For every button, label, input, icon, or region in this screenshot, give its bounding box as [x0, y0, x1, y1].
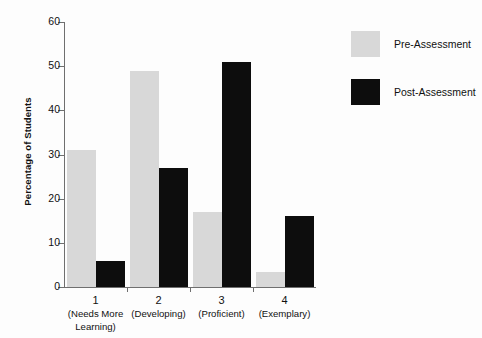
- category-description: Learning): [50, 320, 141, 333]
- x-axis-tick-mark: [253, 287, 254, 292]
- bar: [256, 272, 285, 287]
- legend-label-pre-assessment: Pre-Assessment: [394, 38, 471, 50]
- y-axis-tick-label: 60: [48, 15, 60, 27]
- y-axis-tick-label: 50: [48, 59, 60, 71]
- y-axis-tick-label: 10: [48, 236, 60, 248]
- y-axis-title: Percentage of Students: [22, 87, 33, 217]
- legend-item-pre-assessment: Pre-Assessment: [351, 20, 476, 68]
- legend-item-post-assessment: Post-Assessment: [351, 68, 476, 116]
- category-description: (Exemplary): [239, 307, 330, 320]
- legend: Pre-Assessment Post-Assessment: [351, 20, 476, 116]
- y-axis-tick-label: 30: [48, 148, 60, 160]
- bar: [67, 150, 96, 287]
- y-axis-tick-label: 20: [48, 192, 60, 204]
- x-axis-tick-mark: [190, 287, 191, 292]
- x-axis-category-label: 4(Exemplary): [239, 294, 330, 320]
- bar: [285, 216, 314, 287]
- x-axis-tick-mark: [127, 287, 128, 292]
- bar: [96, 261, 125, 288]
- bar: [193, 212, 222, 287]
- y-axis-tick-label: 0: [54, 280, 60, 292]
- bar: [130, 71, 159, 287]
- category-number: 4: [239, 294, 330, 307]
- plot-area: 0102030405060: [64, 22, 316, 287]
- bar-chart: Percentage of Students 0102030405060 1(N…: [0, 0, 482, 338]
- bar: [159, 168, 188, 287]
- legend-label-post-assessment: Post-Assessment: [394, 86, 476, 98]
- legend-swatch-pre-assessment: [351, 31, 380, 57]
- y-axis-tick-label: 40: [48, 103, 60, 115]
- y-axis-line: [64, 22, 65, 287]
- legend-swatch-post-assessment: [351, 79, 380, 105]
- bar: [222, 62, 251, 287]
